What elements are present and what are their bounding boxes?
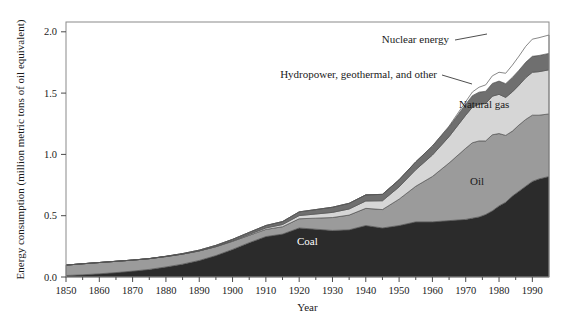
annotation-oil: Oil [470,175,484,187]
stacked-area-chart: 1850186018701880189019001910192019301940… [0,0,573,320]
x-tick-label: 1950 [389,285,410,296]
y-tick-label: 1.5 [44,88,57,99]
chart-container: 1850186018701880189019001910192019301940… [0,0,573,320]
y-axis-title: Energy consumption (million metric tons … [14,19,27,279]
x-tick-label: 1900 [222,285,243,296]
annotation-natural-gas: Natural gas [459,98,509,110]
y-tick-label: 1.0 [44,149,57,160]
y-tick-label: 2.0 [44,26,57,37]
annotation-hydropower-geothermal-and-other: Hydropower, geothermal, and other [280,68,437,80]
x-tick-label: 1910 [255,285,276,296]
x-tick-label: 1940 [355,285,376,296]
x-tick-label: 1860 [89,285,110,296]
y-axis-ticks: 0.00.51.01.52.0 [44,26,66,282]
x-axis-title: Year [297,301,318,313]
x-tick-label: 1970 [455,285,476,296]
annotation-coal: Coal [297,235,318,247]
x-tick-label: 1870 [122,285,143,296]
annotation-nuclear-energy: Nuclear energy [382,33,450,45]
x-tick-label: 1960 [422,285,443,296]
x-tick-label: 1930 [322,285,343,296]
y-tick-label: 0.5 [44,210,57,221]
y-tick-label: 0.0 [44,272,57,283]
x-tick-label: 1890 [189,285,210,296]
x-tick-label: 1980 [489,285,510,296]
x-tick-label: 1850 [56,285,77,296]
annotation-hydropower-geothermal-and-other-leader-line [442,75,472,84]
annotation-nuclear-energy-leader-line [455,34,487,40]
x-axis-ticks: 1850186018701880189019001910192019301940… [56,277,543,296]
x-tick-label: 1990 [522,285,543,296]
x-tick-label: 1880 [155,285,176,296]
x-tick-label: 1920 [289,285,310,296]
